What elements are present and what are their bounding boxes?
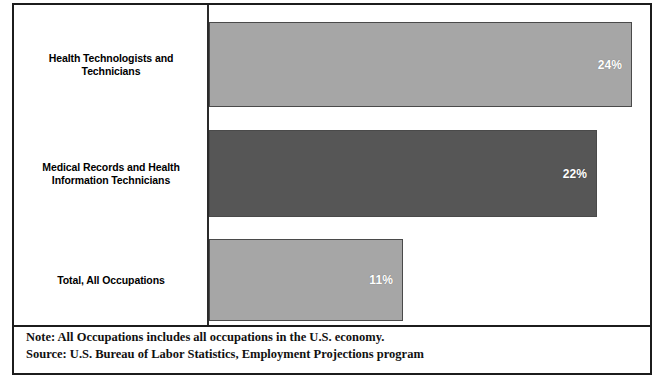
bar-category-label-line1: Health Technologists and (49, 52, 174, 64)
bar-category-label-line2: Information Technicians (52, 174, 170, 186)
bar: 24% (209, 22, 632, 107)
bar-category-label-line1: Medical Records and Health (42, 161, 179, 173)
bar-row: Medical Records and Health Information T… (14, 130, 650, 217)
bar-value-label: 22% (563, 167, 587, 181)
footer-divider (14, 325, 650, 327)
bar: 22% (209, 130, 597, 217)
bar-category-label: Health Technologists and Technicians (20, 52, 202, 78)
footnote-source: Source: U.S. Bureau of Labor Statistics,… (26, 346, 642, 363)
bar: 11% (209, 239, 403, 321)
plot-area: Health Technologists and Technicians 24%… (14, 5, 650, 326)
bar-value-label: 24% (598, 58, 622, 72)
chart-footnote: Note: All Occupations includes all occup… (26, 329, 642, 367)
chart-frame: Health Technologists and Technicians 24%… (12, 3, 652, 375)
footnote-note: Note: All Occupations includes all occup… (26, 329, 642, 346)
bar-category-label-line1: Total, All Occupations (57, 274, 164, 286)
bar-category-label-line2: Technicians (82, 65, 141, 77)
bar-category-label: Total, All Occupations (20, 274, 202, 287)
bar-category-label: Medical Records and Health Information T… (20, 161, 202, 187)
bar-row: Health Technologists and Technicians 24% (14, 22, 650, 107)
bar-row: Total, All Occupations 11% (14, 239, 650, 321)
bar-chart-figure: Health Technologists and Technicians 24%… (0, 0, 660, 385)
bar-value-label: 11% (369, 273, 393, 287)
